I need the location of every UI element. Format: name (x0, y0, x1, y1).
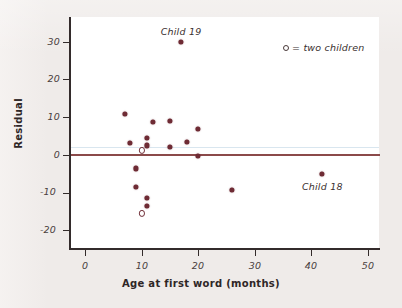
x-tick-50 (368, 249, 369, 256)
y-tick-label-neg10: -10 (30, 186, 56, 197)
annotation-child-19: Child 19 (161, 25, 202, 36)
x-tick-label-30: 30 (240, 260, 270, 271)
zero-reference-line (69, 154, 380, 156)
x-axis-line (69, 248, 380, 250)
y-tick-label-30: 30 (34, 36, 60, 47)
y-axis-line (69, 17, 71, 249)
x-tick-10 (142, 249, 143, 256)
x-tick-20 (198, 249, 199, 256)
x-tick-40 (311, 249, 312, 256)
x-tick-label-10: 10 (127, 260, 157, 271)
y-tick-20 (63, 79, 70, 80)
x-tick-label-20: 20 (183, 260, 213, 271)
y-tick-label-neg20: -20 (30, 224, 56, 235)
y-tick-0 (63, 155, 70, 156)
y-axis-title: Residual (13, 79, 24, 169)
y-tick-label-0: 0 (34, 149, 60, 160)
y-tick-label-10: 10 (34, 111, 60, 122)
y-tick-label-20: 20 (34, 73, 60, 84)
y-tick-neg10 (63, 193, 70, 194)
x-axis-title: Age at first word (months) (0, 278, 402, 289)
y-tick-10 (63, 117, 70, 118)
legend: = two children (283, 42, 364, 53)
x-tick-30 (255, 249, 256, 256)
residual-scatter-figure: 30 20 10 0 -10 -20 0 10 20 30 40 50 Age … (0, 0, 402, 308)
legend-label: = two children (292, 42, 364, 53)
x-tick-label-50: 50 (353, 260, 383, 271)
scan-hairline (70, 147, 379, 148)
annotation-child-18: Child 18 (302, 181, 343, 192)
y-tick-neg20 (63, 230, 70, 231)
x-tick-label-40: 40 (296, 260, 326, 271)
y-tick-30 (63, 42, 70, 43)
legend-open-circle-icon (283, 45, 289, 51)
x-tick-0 (85, 249, 86, 256)
x-tick-label-0: 0 (70, 260, 100, 271)
